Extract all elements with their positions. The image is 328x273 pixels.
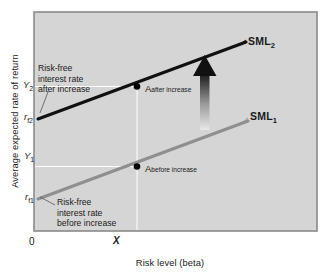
x-tick-x: X xyxy=(113,235,120,246)
annotation-before-line2: interest rate xyxy=(57,208,116,219)
x-axis-title: Risk level (beta) xyxy=(100,258,240,268)
annotation-before-line3: before increase xyxy=(57,218,116,229)
y-tick-y2-sub: 2 xyxy=(29,85,33,92)
annotation-before-line1: Risk-free xyxy=(57,197,116,208)
point-a-before xyxy=(134,163,141,170)
sml1-label: SML1 xyxy=(250,110,277,125)
sml2-label: SML2 xyxy=(248,35,275,50)
annotation-after-line2: interest rate xyxy=(38,74,90,85)
point-a-after-label: Aafter increase xyxy=(145,83,191,94)
sml1-label-sub: 1 xyxy=(273,116,277,125)
annotation-after-line1: Risk-free xyxy=(38,63,90,74)
point-a-after-sub: after increase xyxy=(151,86,191,93)
x-tick-0: 0 xyxy=(29,236,35,247)
y-tick-rf1-sub: f1 xyxy=(28,197,34,204)
y-tick-rf2-sub: f2 xyxy=(27,117,33,124)
y-axis-title: Average expected rate of return xyxy=(10,46,20,196)
sml2-label-main: SML xyxy=(248,35,271,47)
annotation-risk-free-before: Risk-free interest rate before increase xyxy=(57,197,116,229)
point-a-before-sub: before increase xyxy=(151,166,196,173)
annotation-after-line3: after increase xyxy=(38,84,90,95)
point-a-after xyxy=(134,83,141,90)
sml1-label-main: SML xyxy=(250,110,273,122)
y-tick-y1: Y1 xyxy=(24,150,34,163)
sml2-label-sub: 2 xyxy=(271,41,275,50)
y-tick-y2: Y2 xyxy=(23,79,33,92)
sml-shift-chart xyxy=(0,0,328,273)
y-tick-rf2: rf2 xyxy=(24,111,33,124)
y-tick-rf1: rf1 xyxy=(25,191,34,204)
y-tick-y1-sub: 1 xyxy=(30,156,34,163)
point-a-before-label: Abefore increase xyxy=(145,163,197,174)
annotation-risk-free-after: Risk-free interest rate after increase xyxy=(38,63,90,95)
